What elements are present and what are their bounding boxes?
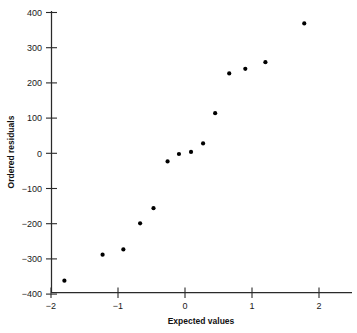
y-axis-tick-label: 0 [37,149,42,159]
data-point [151,206,155,210]
data-point [121,247,125,251]
x-axis-tick-label-group: −2−1012 [46,301,322,311]
x-axis-tick-label: −1 [113,301,123,311]
scatter-plot-canvas: 4003002001000−100−200−300−400 −2−1012 Ex… [0,0,357,333]
data-point [213,111,217,115]
data-point [165,159,169,163]
y-axis-title: Ordered residuals [6,115,16,188]
data-point [138,221,142,225]
y-axis-tick-label-group: 4003002001000−100−200−300−400 [22,8,42,300]
data-point-group [62,21,306,283]
data-point [177,152,181,156]
y-axis-tick-label: 300 [27,43,42,53]
data-point [227,71,231,75]
data-point [302,21,306,25]
y-axis-tick-label: 200 [27,78,42,88]
data-point [201,141,205,145]
y-axis-tick-label: −400 [22,289,42,299]
x-axis-tick-label: 2 [316,301,321,311]
y-axis-tick-label: −300 [22,254,42,264]
data-point [100,253,104,257]
x-axis-tick-label: 0 [182,301,187,311]
data-point [263,60,267,64]
data-point [62,279,66,283]
x-axis-tick-label: 1 [249,301,254,311]
y-axis-tick-label: −200 [22,219,42,229]
data-point [189,150,193,154]
qq-plot-figure: 4003002001000−100−200−300−400 −2−1012 Ex… [0,0,357,333]
x-axis-tick-label: −2 [46,301,56,311]
y-axis-tick-label: −100 [22,184,42,194]
x-axis-title: Expected values [168,316,235,326]
y-axis-tick-label: 100 [27,113,42,123]
data-point [243,67,247,71]
y-axis-tick-label: 400 [27,8,42,18]
